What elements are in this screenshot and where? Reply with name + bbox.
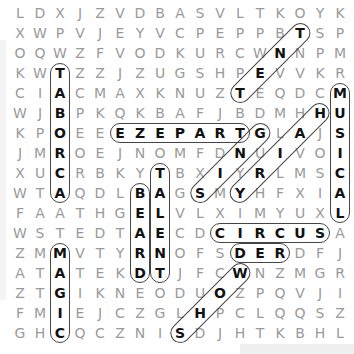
grid-cell[interactable]: N <box>130 323 150 343</box>
grid-cell[interactable]: T <box>70 263 90 283</box>
grid-cell[interactable]: G <box>250 123 270 143</box>
grid-cell[interactable]: R <box>330 263 350 283</box>
grid-cell[interactable]: S <box>310 303 330 323</box>
grid-cell[interactable]: B <box>90 163 110 183</box>
grid-cell[interactable]: L <box>330 323 350 343</box>
grid-cell[interactable]: Z <box>90 63 110 83</box>
grid-cell[interactable]: U <box>150 63 170 83</box>
grid-cell[interactable]: I <box>330 143 350 163</box>
grid-cell[interactable]: X <box>10 23 30 43</box>
grid-cell[interactable]: P <box>210 303 230 323</box>
grid-cell[interactable]: M <box>290 263 310 283</box>
grid-cell[interactable]: A <box>290 123 310 143</box>
grid-cell[interactable]: Q <box>270 283 290 303</box>
grid-cell[interactable]: Z <box>130 303 150 323</box>
grid-cell[interactable]: U <box>190 283 210 303</box>
grid-cell[interactable]: L <box>170 303 190 323</box>
grid-cell[interactable]: N <box>250 263 270 283</box>
grid-cell[interactable]: A <box>50 203 70 223</box>
grid-cell[interactable]: H <box>250 183 270 203</box>
grid-cell[interactable]: A <box>330 183 350 203</box>
grid-cell[interactable]: F <box>190 143 210 163</box>
grid-cell[interactable]: G <box>110 203 130 223</box>
grid-cell[interactable]: D <box>290 243 310 263</box>
grid-cell[interactable]: J <box>330 243 350 263</box>
grid-cell[interactable]: O <box>170 243 190 263</box>
grid-cell[interactable]: U <box>250 143 270 163</box>
grid-cell[interactable]: T <box>70 203 90 223</box>
grid-cell[interactable]: X <box>290 183 310 203</box>
grid-cell[interactable]: S <box>190 3 210 23</box>
grid-cell[interactable]: H <box>90 203 110 223</box>
grid-cell[interactable]: T <box>230 123 250 143</box>
grid-cell[interactable]: K <box>270 323 290 343</box>
grid-cell[interactable]: C <box>210 263 230 283</box>
grid-cell[interactable]: M <box>270 103 290 123</box>
grid-cell[interactable]: I <box>270 143 290 163</box>
grid-cell[interactable]: C <box>10 83 30 103</box>
grid-cell[interactable]: T <box>110 223 130 243</box>
grid-cell[interactable]: T <box>150 163 170 183</box>
grid-cell[interactable]: O <box>130 43 150 63</box>
grid-cell[interactable]: E <box>250 63 270 83</box>
grid-cell[interactable]: Z <box>70 43 90 63</box>
grid-cell[interactable]: L <box>230 3 250 23</box>
grid-cell[interactable]: A <box>110 83 130 103</box>
grid-cell[interactable]: Z <box>130 63 150 83</box>
grid-cell[interactable]: P <box>310 43 330 63</box>
grid-cell[interactable]: D <box>130 263 150 283</box>
grid-cell[interactable]: T <box>30 263 50 283</box>
grid-cell[interactable]: P <box>250 283 270 303</box>
grid-cell[interactable]: D <box>190 323 210 343</box>
grid-cell[interactable]: U <box>330 103 350 123</box>
grid-cell[interactable]: J <box>210 103 230 123</box>
grid-cell[interactable]: X <box>130 83 150 103</box>
grid-cell[interactable]: O <box>70 143 90 163</box>
grid-cell[interactable]: Y <box>130 163 150 183</box>
grid-cell[interactable]: Z <box>70 63 90 83</box>
grid-cell[interactable]: V <box>70 243 90 263</box>
grid-cell[interactable]: M <box>30 243 50 263</box>
grid-cell[interactable]: I <box>150 323 170 343</box>
grid-cell[interactable]: T <box>150 263 170 283</box>
grid-cell[interactable]: W <box>230 263 250 283</box>
grid-cell[interactable]: Q <box>70 183 90 203</box>
grid-cell[interactable]: E <box>70 223 90 243</box>
grid-cell[interactable]: Y <box>310 3 330 23</box>
grid-cell[interactable]: E <box>130 283 150 303</box>
grid-cell[interactable]: D <box>30 3 50 23</box>
grid-cell[interactable]: E <box>250 83 270 103</box>
grid-cell[interactable]: A <box>170 103 190 123</box>
grid-cell[interactable]: L <box>250 303 270 323</box>
grid-cell[interactable]: N <box>290 43 310 63</box>
grid-cell[interactable]: C <box>230 303 250 323</box>
grid-cell[interactable]: A <box>150 183 170 203</box>
grid-cell[interactable]: V <box>290 63 310 83</box>
grid-cell[interactable]: U <box>30 163 50 183</box>
grid-cell[interactable]: H <box>210 63 230 83</box>
grid-cell[interactable]: W <box>10 103 30 123</box>
grid-cell[interactable]: S <box>330 123 350 143</box>
grid-cell[interactable]: E <box>110 123 130 143</box>
grid-cell[interactable]: H <box>290 103 310 123</box>
grid-cell[interactable]: B <box>150 103 170 123</box>
grid-cell[interactable]: W <box>250 43 270 63</box>
grid-cell[interactable]: N <box>170 83 190 103</box>
grid-cell[interactable]: X <box>210 203 230 223</box>
grid-cell[interactable]: A <box>190 123 210 143</box>
grid-cell[interactable]: N <box>130 143 150 163</box>
grid-cell[interactable]: D <box>230 243 250 263</box>
grid-cell[interactable]: Q <box>290 303 310 323</box>
grid-cell[interactable]: T <box>90 243 110 263</box>
grid-cell[interactable]: W <box>10 223 30 243</box>
grid-cell[interactable]: D <box>210 143 230 163</box>
grid-cell[interactable]: W <box>30 63 50 83</box>
grid-cell[interactable]: R <box>50 143 70 163</box>
grid-cell[interactable]: Z <box>270 263 290 283</box>
grid-cell[interactable]: R <box>210 123 230 143</box>
grid-cell[interactable]: Y <box>130 23 150 43</box>
grid-cell[interactable]: H <box>310 103 330 123</box>
grid-cell[interactable]: M <box>30 303 50 323</box>
grid-cell[interactable]: M <box>50 243 70 263</box>
grid-cell[interactable]: B <box>130 183 150 203</box>
